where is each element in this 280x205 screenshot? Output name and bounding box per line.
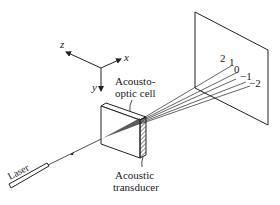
y-axis-label: y [91,81,97,93]
x-axis [101,59,121,68]
transducer-label-line2: transducer [113,181,159,193]
order-beam-neg2 [140,86,250,124]
z-axis-label: z [59,38,65,50]
transducer-leader [142,157,143,167]
x-axis-label: x [123,51,129,63]
order-label-neg2: −2 [249,77,261,89]
acousto-optic-cell [101,103,146,158]
cell-label-line1: Acousto- [115,75,156,87]
laser: Laser [6,161,49,188]
cell-label-line2: optic cell [115,87,156,99]
transducer-label-line1: Acoustic [115,169,154,181]
cell-leader [130,100,132,111]
observation-screen [195,12,268,125]
order-label-2: 2 [220,52,226,64]
z-axis [66,52,101,68]
acousto-optic-diagram: z x y Laser 2 1 0 −1 −2 Acousto- optic c… [0,0,280,205]
